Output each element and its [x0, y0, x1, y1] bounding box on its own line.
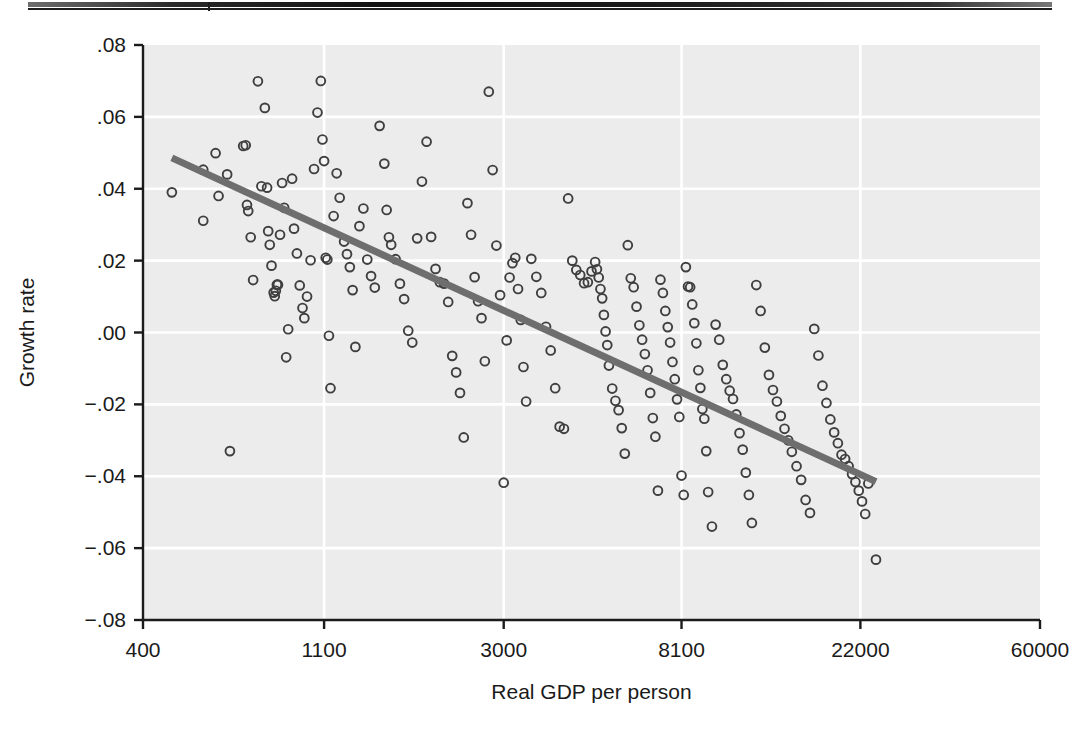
x-tick-label: 1100	[302, 638, 347, 661]
y-axis-title: Growth rate	[15, 278, 38, 388]
y-tick-label: −.06	[85, 536, 126, 559]
y-tick-label: −.02	[85, 392, 126, 415]
x-tick-label: 60000	[1011, 638, 1069, 661]
y-tick-label: .02	[97, 249, 126, 272]
scatter-plot: .08.06.04.02.00−.02−.04−.06−.08400110030…	[0, 0, 1080, 733]
y-tick-label: .08	[97, 33, 126, 56]
x-axis-title: Real GDP per person	[491, 680, 691, 703]
y-tick-label: −.04	[85, 464, 127, 487]
y-tick-label: .00	[97, 321, 126, 344]
y-tick-label: −.08	[85, 608, 126, 631]
x-tick-label: 22000	[831, 638, 889, 661]
y-tick-label: .06	[97, 105, 126, 128]
x-tick-label: 400	[125, 638, 160, 661]
figure-container: .08.06.04.02.00−.02−.04−.06−.08400110030…	[0, 0, 1080, 733]
x-tick-label: 8100	[658, 638, 705, 661]
x-tick-label: 3000	[480, 638, 527, 661]
y-tick-label: .04	[97, 177, 127, 200]
